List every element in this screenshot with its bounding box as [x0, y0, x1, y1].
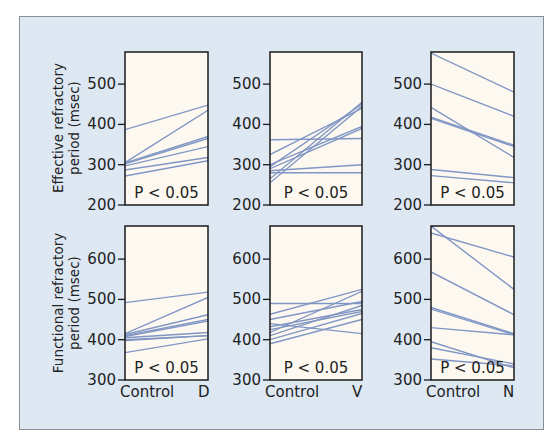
p-value-annotation: P < 0.05: [284, 184, 349, 202]
x-label-n: N: [503, 383, 514, 401]
plot-area: [270, 52, 362, 205]
y-tick-label: 200: [393, 196, 422, 214]
y-tick-label: 500: [87, 75, 116, 93]
y-axis-label-effective: Effective refractory period (msec): [50, 63, 82, 193]
y-tick-label: 400: [87, 331, 116, 349]
p-value-annotation: P < 0.05: [440, 184, 505, 202]
y-tick-label: 300: [393, 156, 422, 174]
p-value-annotation: P < 0.05: [134, 359, 199, 377]
x-label-d: D: [198, 383, 210, 401]
y-tick-label: 500: [232, 75, 261, 93]
p-value-annotation: P < 0.05: [284, 359, 349, 377]
y-tick-label: 300: [87, 156, 116, 174]
panel-top-middle: 200300400500P < 0.05: [232, 52, 362, 214]
y-label-line2: period (msec): [66, 256, 82, 350]
y-tick-label: 400: [393, 331, 422, 349]
y-label-line1: Effective refractory: [50, 63, 66, 193]
p-value-annotation: P < 0.05: [134, 184, 199, 202]
y-tick-label: 500: [87, 290, 116, 308]
y-tick-label: 500: [393, 75, 422, 93]
y-tick-label: 300: [87, 371, 116, 389]
y-tick-label: 200: [232, 196, 261, 214]
y-label-line2: period (msec): [66, 81, 82, 175]
y-tick-label: 500: [393, 290, 422, 308]
y-tick-label: 300: [232, 156, 261, 174]
y-tick-label: 400: [232, 331, 261, 349]
x-label-control-v: Control: [265, 383, 319, 401]
y-tick-label: 400: [232, 115, 261, 133]
y-tick-label: 600: [232, 250, 261, 268]
y-tick-label: 500: [232, 290, 261, 308]
plot-area: [431, 226, 514, 380]
y-tick-label: 400: [393, 115, 422, 133]
panel-bottom-right: 300400500600P < 0.05: [393, 226, 514, 389]
y-tick-label: 600: [393, 250, 422, 268]
panel-top-left: 200300400500P < 0.05: [87, 52, 208, 214]
y-axis-label-functional: Functional refractory period (msec): [50, 233, 82, 373]
x-label-control-d: Control: [120, 383, 174, 401]
panel-top-right: 200300400500P < 0.05: [393, 52, 514, 214]
x-label-control-n: Control: [426, 383, 480, 401]
y-tick-label: 300: [232, 371, 261, 389]
y-tick-label: 300: [393, 371, 422, 389]
y-tick-label: 200: [87, 196, 116, 214]
y-tick-label: 600: [87, 250, 116, 268]
panel-bottom-left: 300400500600P < 0.05: [87, 226, 208, 389]
panel-bottom-middle: 300400500600P < 0.05: [232, 226, 362, 389]
p-value-annotation: P < 0.05: [440, 359, 505, 377]
y-label-line1: Functional refractory: [50, 233, 66, 373]
y-tick-label: 400: [87, 115, 116, 133]
plot-area: [125, 52, 208, 205]
figure-svg: Effective refractory period (msec) Funct…: [0, 0, 554, 444]
x-label-v: V: [352, 383, 363, 401]
